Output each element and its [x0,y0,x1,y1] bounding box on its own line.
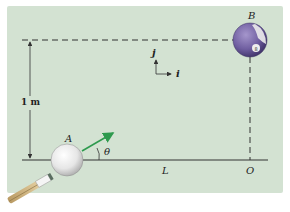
ball-b-label: B [248,11,255,21]
distance-l-label: L [162,166,169,176]
unit-i-label: i [176,69,180,79]
angle-label: θ [104,147,110,157]
svg-text:8: 8 [254,46,257,52]
ball-a-icon [51,144,83,176]
cue-stick-icon [7,173,54,204]
vertical-distance-label: 1 m [21,98,40,107]
diagram-canvas: 8 [0,0,290,212]
unit-j-label: j [152,48,156,58]
unit-vector-axes-icon [156,60,171,74]
angle-arc-icon [97,148,99,160]
ball-b-icon: 8 [233,23,267,57]
ball-a-label: A [65,134,72,144]
origin-label: O [246,166,254,176]
